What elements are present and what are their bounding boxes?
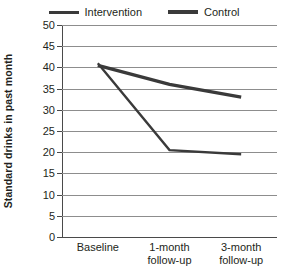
- x-axis-tick-label: 3-monthfollow-up: [219, 241, 263, 267]
- y-axis-title-container: Standard drinks in past month: [0, 25, 16, 237]
- line-chart-figure: Intervention Control Standard drinks in …: [0, 0, 288, 278]
- y-axis-tick: [57, 237, 62, 238]
- x-axis-tick-label: Baseline: [77, 241, 119, 254]
- x-axis-label-line2: follow-up: [219, 254, 263, 267]
- x-axis-label-line2: follow-up: [147, 254, 191, 267]
- y-axis-title: Standard drinks in past month: [2, 54, 14, 209]
- y-axis-tick-label: 20: [43, 147, 55, 158]
- x-axis-tick-label: 1-monthfollow-up: [147, 241, 191, 267]
- y-axis-tick-label: 35: [43, 83, 55, 94]
- legend-item-intervention: Intervention: [49, 6, 142, 18]
- series-line-control: [98, 65, 241, 97]
- y-axis-tick-label: 15: [43, 168, 55, 179]
- y-axis-tick-label: 50: [43, 20, 55, 31]
- data-series-layer: [62, 25, 277, 237]
- legend-item-control: Control: [168, 6, 239, 18]
- x-axis-label-line1: 3-month: [219, 241, 263, 254]
- x-axis-label-line1: Baseline: [77, 241, 119, 254]
- y-axis-tick-label: 30: [43, 104, 55, 115]
- y-axis-tick-label: 5: [49, 210, 55, 221]
- x-axis-labels: Baseline1-monthfollow-up3-monthfollow-up: [62, 241, 277, 275]
- x-axis-line: [62, 237, 277, 238]
- y-axis-tick-label: 25: [43, 126, 55, 137]
- y-axis-tick-label: 0: [49, 232, 55, 243]
- legend-label-intervention: Intervention: [85, 6, 142, 18]
- y-axis-tick-label: 45: [43, 41, 55, 52]
- plot-area: 50454035302520151050: [62, 25, 277, 237]
- y-axis-tick-label: 10: [43, 189, 55, 200]
- series-line-intervention: [98, 63, 241, 154]
- legend-label-control: Control: [204, 6, 239, 18]
- y-axis-tick-label: 40: [43, 62, 55, 73]
- x-axis-label-line1: 1-month: [147, 241, 191, 254]
- legend-line-swatch-control: [168, 10, 198, 14]
- legend-line-swatch-intervention: [49, 11, 79, 14]
